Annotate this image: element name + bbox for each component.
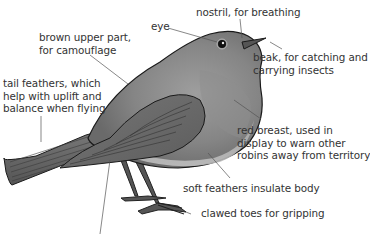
- label-eye: eye: [151, 20, 170, 33]
- label-beak: beak, for catching and carrying insects: [253, 51, 368, 76]
- leader-toes: [186, 212, 191, 214]
- label-brown-upper: brown upper part, for camouflage: [39, 31, 131, 56]
- label-red-breast: red breast, used in display to warn othe…: [237, 124, 370, 162]
- eye: [217, 39, 227, 49]
- leader-beak: [270, 42, 282, 49]
- label-tail: tail feathers, which help with uplift an…: [3, 77, 105, 115]
- leader-wing-bottom: [100, 160, 110, 234]
- label-soft-feathers: soft feathers insulate body: [183, 182, 320, 195]
- label-nostril: nostril, for breathing: [196, 6, 301, 19]
- label-clawed-toes: clawed toes for gripping: [201, 207, 325, 220]
